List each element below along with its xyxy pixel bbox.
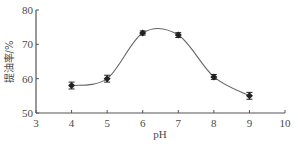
line-chart: 34567891050607080 pH 提油率/% — [0, 0, 298, 146]
y-tick-label: 70 — [22, 38, 34, 50]
diamond-marker-icon — [246, 92, 253, 99]
data-point — [139, 30, 146, 37]
y-tick-label: 80 — [22, 4, 34, 16]
data-point — [246, 92, 253, 99]
data-point — [175, 32, 182, 39]
x-tick-label: 10 — [280, 117, 292, 129]
x-axis-title: pH — [153, 128, 167, 140]
x-tick-label: 8 — [211, 117, 217, 129]
diamond-marker-icon — [68, 82, 75, 89]
fitted-curve — [72, 28, 250, 95]
x-tick-label: 5 — [104, 117, 110, 129]
y-tick-label: 50 — [22, 107, 34, 119]
data-point — [68, 82, 75, 89]
x-tick-label: 3 — [33, 117, 39, 129]
x-tick-label: 4 — [69, 117, 75, 129]
x-tick-label: 6 — [140, 117, 146, 129]
axes: 34567891050607080 — [22, 4, 291, 129]
y-axis-title: 提油率/% — [3, 41, 15, 84]
x-tick-label: 9 — [247, 117, 253, 129]
data-point — [210, 73, 217, 80]
x-tick-label: 7 — [176, 117, 182, 129]
y-tick-label: 60 — [22, 73, 34, 85]
data-points — [68, 30, 253, 100]
